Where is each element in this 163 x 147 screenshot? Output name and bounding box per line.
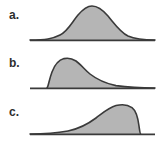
left-skewed-curve-plot (0, 94, 163, 147)
symmetric-curve-plot (0, 0, 163, 46)
panel-right-skewed-distribution: b. (0, 46, 163, 94)
left-skewed-curve-fill (30, 105, 155, 134)
distribution-shapes-figure: a. b. c. (0, 0, 163, 147)
symmetric-curve-fill (30, 6, 155, 40)
right-skewed-curve-plot (0, 46, 163, 94)
panel-symmetric-distribution: a. (0, 0, 163, 46)
panel-left-skewed-distribution: c. (0, 94, 163, 147)
